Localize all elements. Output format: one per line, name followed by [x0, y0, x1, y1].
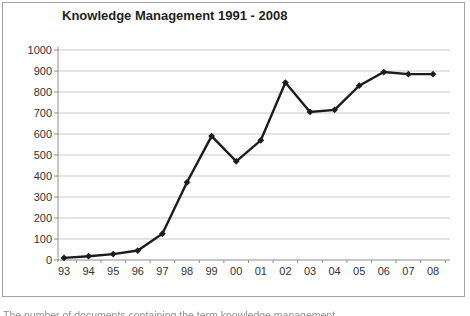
x-tick-label: 94 [82, 265, 94, 277]
y-tick-label: 400 [34, 170, 52, 182]
x-tick-label: 04 [328, 265, 340, 277]
data-point-marker [430, 71, 437, 78]
line-chart-plot: 0100200300400500600700800900100093949596… [0, 0, 470, 300]
x-tick-label: 96 [132, 265, 144, 277]
x-tick-label: 97 [156, 265, 168, 277]
y-tick-label: 100 [34, 233, 52, 245]
y-tick-label: 800 [34, 86, 52, 98]
y-tick-label: 200 [34, 212, 52, 224]
x-tick-label: 02 [279, 265, 291, 277]
y-tick-label: 600 [34, 128, 52, 140]
y-tick-label: 900 [34, 65, 52, 77]
x-tick-label: 00 [230, 265, 242, 277]
x-tick-label: 06 [378, 265, 390, 277]
y-tick-label: 700 [34, 107, 52, 119]
x-tick-label: 93 [58, 265, 70, 277]
x-tick-label: 05 [353, 265, 365, 277]
data-point-marker [85, 253, 92, 260]
cropped-caption-text: The number of documents containing the t… [3, 309, 348, 316]
x-tick-label: 08 [427, 265, 439, 277]
data-point-marker [110, 251, 117, 258]
screenshot-root: Knowledge Management 1991 - 2008 0100200… [0, 0, 470, 316]
data-series-line [64, 72, 433, 258]
x-tick-label: 98 [181, 265, 193, 277]
x-tick-label: 01 [255, 265, 267, 277]
x-tick-label: 03 [304, 265, 316, 277]
y-tick-label: 0 [46, 254, 52, 266]
x-tick-label: 95 [107, 265, 119, 277]
y-tick-label: 1000 [28, 44, 52, 56]
x-tick-label: 99 [205, 265, 217, 277]
x-tick-label: 07 [402, 265, 414, 277]
y-tick-label: 500 [34, 149, 52, 161]
y-tick-label: 300 [34, 191, 52, 203]
data-point-marker [405, 71, 412, 78]
